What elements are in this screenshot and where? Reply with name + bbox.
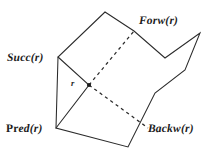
label-forw: Forw(r) — [139, 16, 178, 28]
figure-container: Succ(r) Forw(r) Pred(r) Backw(r) r — [0, 0, 218, 154]
backward-dashed-chord — [89, 85, 148, 128]
label-pred-prefix: Pr — [6, 123, 19, 135]
succ-pred-solid-chord — [56, 57, 89, 128]
point-r-dot — [87, 83, 91, 87]
label-pred: Pred(r) — [6, 124, 43, 136]
label-point-r: r — [71, 79, 75, 88]
label-backw: Backw(r) — [148, 124, 194, 136]
label-pred-suffix: ed(r) — [19, 123, 43, 135]
label-succ: Succ(r) — [7, 53, 44, 65]
forward-dashed-chord — [89, 31, 134, 85]
